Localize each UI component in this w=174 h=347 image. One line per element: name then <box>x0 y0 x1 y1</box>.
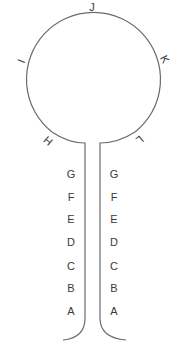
stem-right-label: C <box>110 260 118 272</box>
loop-label-l: L <box>134 133 146 146</box>
hairpin-diagram: J I K H L G F E D C B A G F E D C B A <box>0 0 174 347</box>
stem-right-label: F <box>111 191 118 203</box>
loop-label-i: I <box>15 57 27 64</box>
stem-right-label: A <box>110 305 118 317</box>
stem-left-label: B <box>67 282 74 294</box>
stem-left-label: C <box>67 260 75 272</box>
stem-right-label: E <box>110 213 117 225</box>
loop-label-k: K <box>158 53 172 66</box>
stem-right-label: B <box>110 282 117 294</box>
stem-left-labels: G F E D C B A <box>67 168 76 317</box>
loop-label-h: H <box>41 134 55 148</box>
stem-left-label: F <box>68 191 75 203</box>
stem-right-label: G <box>110 168 119 180</box>
stem-left-label: A <box>67 305 75 317</box>
loop-label-j: J <box>89 1 95 13</box>
stem-right-label: D <box>110 236 118 248</box>
stem-left-label: D <box>67 236 75 248</box>
stem-right-labels: G F E D C B A <box>110 168 119 317</box>
hairpin-outline <box>26 12 160 340</box>
stem-left-label: G <box>67 168 76 180</box>
stem-left-label: E <box>67 213 74 225</box>
